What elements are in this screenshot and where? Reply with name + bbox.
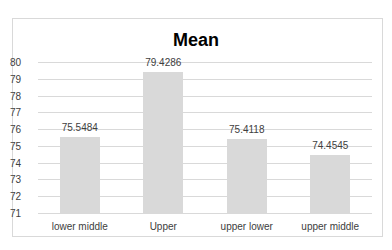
gridline	[38, 96, 372, 97]
x-tick-label: upper middle	[285, 221, 375, 232]
x-tick-label: upper lower	[202, 221, 292, 232]
data-label: 74.4545	[295, 140, 365, 151]
y-tick-label: 78	[10, 90, 30, 101]
y-tick-label: 74	[10, 157, 30, 168]
y-tick-label: 72	[10, 191, 30, 202]
x-tick-label: Upper	[118, 221, 208, 232]
chart-title: Mean	[0, 30, 392, 51]
data-label: 79.4286	[128, 57, 198, 68]
gridline	[38, 213, 372, 214]
data-label: 75.4118	[212, 124, 282, 135]
y-tick-label: 71	[10, 208, 30, 219]
bar	[60, 137, 100, 213]
data-label: 75.5484	[45, 122, 115, 133]
gridline	[38, 112, 372, 113]
y-tick-label: 80	[10, 57, 30, 68]
gridline	[38, 79, 372, 80]
gridline	[38, 62, 372, 63]
y-tick-label: 76	[10, 124, 30, 135]
bar	[143, 72, 183, 213]
y-tick-label: 79	[10, 73, 30, 84]
y-tick-label: 75	[10, 140, 30, 151]
plot-area	[38, 62, 372, 213]
bar	[227, 139, 267, 213]
y-tick-label: 77	[10, 107, 30, 118]
x-tick-label: lower middle	[35, 221, 125, 232]
y-tick-label: 73	[10, 174, 30, 185]
bar	[310, 155, 350, 213]
